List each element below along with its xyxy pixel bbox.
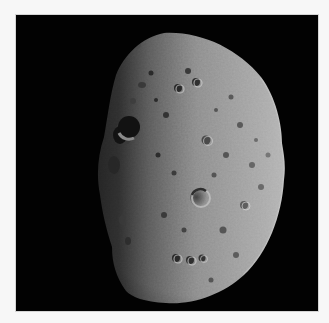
asteroid-photo xyxy=(16,15,318,311)
asteroid-illustration xyxy=(16,15,318,311)
asteroid-body xyxy=(16,15,318,311)
